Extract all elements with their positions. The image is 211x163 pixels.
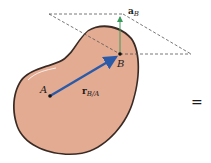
accel-vector-label: aB [128, 6, 139, 18]
point-b-label: B [116, 58, 124, 69]
position-vector-label-sub: B/A [86, 90, 100, 98]
equals-sign: = [191, 94, 203, 110]
rigid-body-diagram: A B aB rB/A = [0, 0, 211, 163]
point-a-dot [48, 94, 52, 98]
point-a-label: A [39, 84, 47, 95]
accel-vector-label-sub: B [133, 10, 139, 18]
point-b-dot [118, 52, 122, 56]
